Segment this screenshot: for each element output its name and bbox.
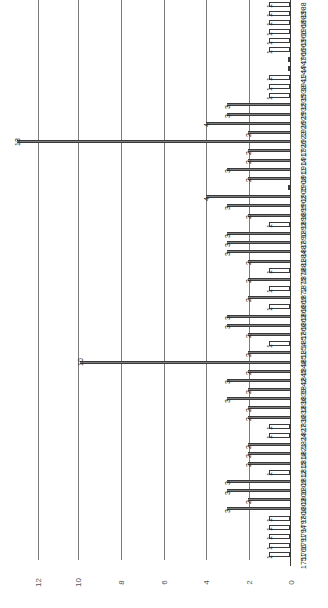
bar — [227, 507, 290, 510]
bar-value-label: 3 — [224, 380, 231, 384]
bar-value-label: 2 — [245, 215, 252, 219]
bar-value-label: 1 — [266, 555, 273, 559]
bar-value-label: 1 — [266, 472, 273, 476]
bar-value-label: 3 — [224, 481, 231, 485]
gridline-12 — [38, 0, 39, 560]
bar-value-label: 2 — [245, 463, 252, 467]
gridline-4 — [206, 0, 207, 560]
bar-value-label: 2 — [245, 500, 252, 504]
bar-value-label: 1 — [266, 50, 273, 54]
bar-value-label: 2 — [245, 408, 252, 412]
bar — [248, 278, 290, 281]
bar-value-label: 3 — [224, 509, 231, 513]
bar-value-label: 3 — [224, 252, 231, 256]
bar — [227, 250, 290, 253]
bar-value-label: 1 — [266, 270, 273, 274]
bar-value-label: 1 — [266, 546, 273, 550]
axis-tick-6: 6 — [160, 571, 169, 595]
bar-value-label: 4 — [203, 197, 210, 201]
bar-value-label: 2 — [245, 390, 252, 394]
bar-value-label: 2 — [245, 371, 252, 375]
bar-value-label: 1 — [266, 518, 273, 522]
bar — [227, 397, 290, 400]
bar — [248, 177, 290, 180]
bar — [248, 214, 290, 217]
bar-value-label: 1 — [266, 87, 273, 91]
axis-tick-0: 0 — [287, 571, 296, 595]
bar — [248, 498, 290, 501]
bar — [248, 416, 290, 419]
bar-value-label: 1 — [266, 224, 273, 228]
bar-value-label: 1 — [266, 41, 273, 45]
gridline-8 — [121, 0, 122, 560]
bar-value-label: 3 — [224, 169, 231, 173]
bar — [248, 333, 290, 336]
bar-value-label: 10 — [77, 358, 84, 366]
bar-value-label: 2 — [245, 335, 252, 339]
bar-value-label: 3 — [224, 206, 231, 210]
bar-value-label: 1 — [266, 537, 273, 541]
bar — [227, 379, 290, 382]
bar-value-label: 3 — [224, 243, 231, 247]
bar — [227, 103, 290, 106]
bar — [206, 122, 290, 125]
bar-value-label: 1 — [266, 32, 273, 36]
bar-value-label: 2 — [245, 445, 252, 449]
bar — [288, 66, 290, 71]
bar-value-label: 2 — [245, 298, 252, 302]
bar-value-label: 1 — [266, 22, 273, 26]
bar — [248, 260, 290, 263]
bar-value-label: 1 — [266, 344, 273, 348]
axis-tick-10: 10 — [74, 571, 83, 595]
bar — [288, 57, 290, 62]
bar-value-label: 1 — [266, 436, 273, 440]
bar-value-label: 1 — [266, 289, 273, 293]
bar — [248, 351, 290, 354]
bar-chart: 12 10 8 6 4 2 0 111111111334213223243213… — [0, 0, 328, 608]
bar — [227, 113, 290, 116]
bar-value-label: 2 — [245, 133, 252, 137]
bar-value-label: 2 — [245, 353, 252, 357]
bar-value-label: 4 — [203, 123, 210, 127]
bar — [248, 443, 290, 446]
bar — [80, 361, 290, 364]
gridline-6 — [164, 0, 165, 560]
axis-tick-8: 8 — [117, 571, 126, 595]
bar — [227, 168, 290, 171]
bar — [227, 324, 290, 327]
bar-value-label: 3 — [224, 325, 231, 329]
bar-value-label: 1 — [266, 96, 273, 100]
bar — [248, 296, 290, 299]
bar-value-label: 3 — [224, 399, 231, 403]
bar-value-label: 2 — [245, 179, 252, 183]
bar-value-label: 13 — [14, 138, 21, 146]
bar-value-label: 2 — [245, 279, 252, 283]
bar-value-label: 1 — [266, 426, 273, 430]
bar-value-label: 1 — [266, 78, 273, 82]
year-axis-label: 1751 — [300, 553, 307, 569]
bar — [17, 140, 290, 143]
axis-tick-2: 2 — [245, 571, 254, 595]
bar-value-label: 3 — [224, 316, 231, 320]
bar-value-label: 2 — [245, 417, 252, 421]
bar-value-label: 2 — [245, 160, 252, 164]
bar — [227, 241, 290, 244]
bar — [227, 232, 290, 235]
gridline-10 — [78, 0, 79, 560]
bar — [248, 406, 290, 409]
bar-value-label: 3 — [224, 234, 231, 238]
bar-value-label: 1 — [266, 307, 273, 311]
bar-value-label: 1 — [266, 4, 273, 8]
bar — [248, 388, 290, 391]
bar — [227, 315, 290, 318]
bar-value-label: 3 — [224, 105, 231, 109]
bar — [227, 489, 290, 492]
bar-value-label: 2 — [245, 261, 252, 265]
bar — [248, 131, 290, 134]
bar — [248, 452, 290, 455]
bar — [227, 204, 290, 207]
bar — [248, 149, 290, 152]
bar — [206, 195, 290, 198]
axis-tick-4: 4 — [202, 571, 211, 595]
bar-value-label: 3 — [224, 491, 231, 495]
